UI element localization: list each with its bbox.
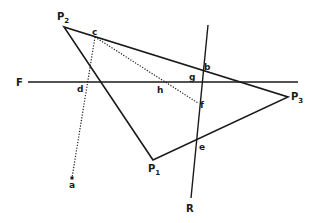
dotted-line-c-a: [72, 37, 95, 178]
dotted-line-c-f: [95, 37, 198, 103]
label-b: b: [204, 62, 211, 72]
label-line-f: F: [16, 77, 23, 88]
label-g: g: [189, 72, 195, 82]
label-d: d: [77, 84, 83, 94]
triangle-p1-p2-p3: [64, 27, 288, 160]
label-p1: P1: [148, 163, 160, 177]
label-e: e: [199, 142, 205, 152]
geometric-diagram: P2 P3 P1 c b g d h f e a F R: [0, 0, 317, 223]
line-r: [191, 25, 208, 198]
label-a: a: [69, 180, 75, 190]
label-c: c: [92, 27, 97, 37]
label-h: h: [157, 85, 163, 95]
label-f-point: f: [200, 100, 204, 110]
label-p2: P2: [57, 11, 69, 25]
label-p3: P3: [291, 91, 303, 105]
label-line-r: R: [186, 203, 194, 214]
